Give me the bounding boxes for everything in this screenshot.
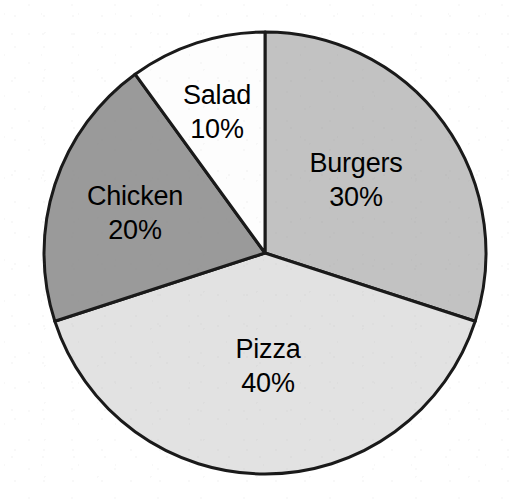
pie-slice-label-salad-percent: 10%	[183, 112, 251, 146]
pie-chart-figure: Burgers 30% Pizza 40% Chicken 20% Salad …	[0, 0, 521, 499]
pie-slice-label-salad: Salad 10%	[183, 78, 251, 146]
pie-slice-label-chicken-name: Chicken	[87, 179, 183, 213]
pie-slice-label-pizza-name: Pizza	[235, 332, 300, 366]
pie-slice-label-chicken: Chicken 20%	[87, 179, 183, 247]
pie-slice-label-pizza-percent: 40%	[235, 366, 300, 400]
pie-slice-group	[44, 32, 486, 474]
pie-slice-label-burgers: Burgers 30%	[309, 146, 402, 214]
pie-slice-label-chicken-percent: 20%	[87, 213, 183, 247]
pie-chart-canvas	[0, 0, 521, 499]
pie-slice-label-burgers-percent: 30%	[309, 180, 402, 214]
pie-slice-label-burgers-name: Burgers	[309, 146, 402, 180]
pie-slice-label-pizza: Pizza 40%	[235, 332, 300, 400]
pie-slice-label-salad-name: Salad	[183, 78, 251, 112]
